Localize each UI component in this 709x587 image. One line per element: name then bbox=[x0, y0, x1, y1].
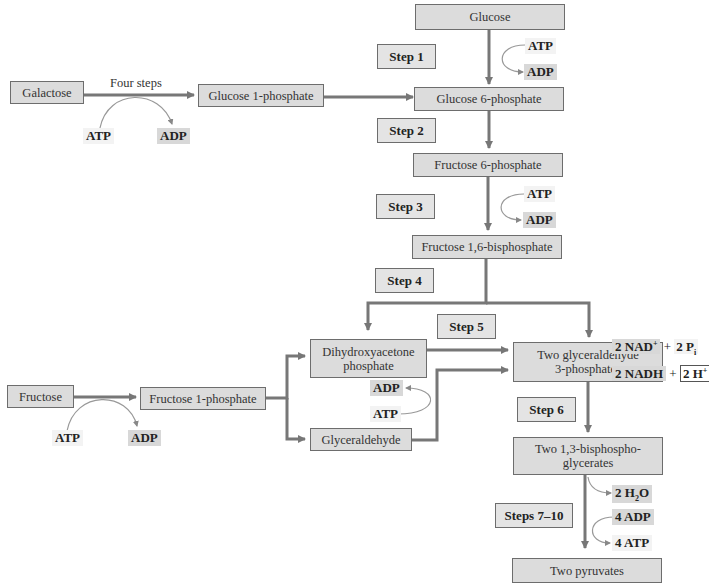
bpg-label-line2: glycerates bbox=[563, 456, 614, 470]
step3-atp-label: ATP bbox=[524, 186, 555, 202]
step-2-label: Step 2 bbox=[389, 123, 423, 139]
four-adp-label: 4 ADP bbox=[612, 509, 654, 525]
dhap-label-line2: phosphate bbox=[343, 359, 394, 373]
glucose-1-phosphate-box: Glucose 1-phosphate bbox=[198, 84, 324, 107]
fructose-atp-label: ATP bbox=[52, 430, 83, 446]
bisphosphoglycerates-box: Two 1,3-bisphospho-glycerates bbox=[513, 437, 663, 475]
galactose-atp-label: ATP bbox=[83, 128, 114, 144]
four-atp-label: 4 ATP bbox=[612, 535, 652, 551]
galactose-adp-label: ADP bbox=[157, 128, 190, 144]
dhap-label-line1: Dihydroxyacetone bbox=[322, 345, 414, 359]
pi-label: 2 Pi bbox=[674, 339, 698, 354]
glycolysis-diagram: Glucose Glucose 6-phosphate Fructose 6-p… bbox=[0, 0, 709, 587]
glyceraldehyde-box: Glyceraldehyde bbox=[310, 428, 412, 451]
step-2-box: Step 2 bbox=[377, 118, 436, 143]
fructose-6-phosphate-label: Fructose 6-phosphate bbox=[434, 158, 541, 172]
galactose-label: Galactose bbox=[22, 86, 71, 100]
glyceraldehyde-label: Glyceraldehyde bbox=[321, 433, 400, 447]
glucose-label: Glucose bbox=[470, 10, 511, 24]
glucose-6-phosphate-box: Glucose 6-phosphate bbox=[414, 87, 564, 111]
pyruvates-box: Two pyruvates bbox=[512, 558, 662, 583]
fructose-1-phosphate-label: Fructose 1-phosphate bbox=[149, 392, 256, 406]
fructose-1-phosphate-box: Fructose 1-phosphate bbox=[140, 387, 266, 410]
step-4-box: Step 4 bbox=[375, 268, 434, 293]
nadh-label: 2 NADH bbox=[612, 366, 666, 381]
step1-adp-label: ADP bbox=[524, 64, 557, 80]
galactose-box: Galactose bbox=[10, 81, 84, 104]
pyruvates-label: Two pyruvates bbox=[550, 564, 624, 578]
step-1-label: Step 1 bbox=[389, 49, 423, 65]
fructose-box: Fructose bbox=[7, 385, 74, 408]
steps-7-10-label: Steps 7–10 bbox=[505, 508, 564, 524]
step-5-box: Step 5 bbox=[437, 314, 496, 339]
step-3-label: Step 3 bbox=[388, 199, 422, 215]
step1-atp-label: ATP bbox=[525, 38, 556, 54]
nad-label: 2 NAD+ bbox=[612, 339, 660, 354]
glyceraldehyde-adp-label: ADP bbox=[370, 380, 403, 396]
glucose-6-phosphate-label: Glucose 6-phosphate bbox=[436, 92, 541, 106]
glucose-box: Glucose bbox=[415, 4, 565, 30]
nadh-h-label: 2 NADH + 2 H+ bbox=[612, 366, 709, 382]
fructose-label: Fructose bbox=[19, 390, 62, 404]
fructose-1-6-bisphosphate-box: Fructose 1,6-bisphosphate bbox=[412, 235, 562, 259]
glucose-1-phosphate-label: Glucose 1-phosphate bbox=[208, 89, 313, 103]
bpg-label-line1: Two 1,3-bisphospho- bbox=[535, 442, 641, 456]
nad-pi-label: 2 NAD+ + 2 Pi bbox=[612, 339, 698, 357]
fructose-6-phosphate-box: Fructose 6-phosphate bbox=[413, 153, 563, 177]
pathway-arrows bbox=[0, 0, 709, 587]
step-5-label: Step 5 bbox=[449, 319, 483, 335]
h-plus-label: 2 H+ bbox=[680, 365, 709, 382]
h2o-label: 2 H2O bbox=[612, 485, 652, 503]
step-3-box: Step 3 bbox=[376, 194, 435, 219]
dhap-box: Dihydroxyacetonephosphate bbox=[310, 339, 427, 378]
step-6-box: Step 6 bbox=[517, 397, 576, 422]
fructose-adp-label: ADP bbox=[128, 430, 161, 446]
fructose-1-6-bisphosphate-label: Fructose 1,6-bisphosphate bbox=[421, 240, 552, 254]
four-steps-label: Four steps bbox=[110, 76, 162, 91]
step3-adp-label: ADP bbox=[523, 212, 556, 228]
step-1-box: Step 1 bbox=[377, 44, 436, 69]
step-4-label: Step 4 bbox=[387, 273, 421, 289]
steps-7-10-box: Steps 7–10 bbox=[495, 503, 573, 528]
glyceraldehyde-atp-label: ATP bbox=[370, 406, 401, 422]
step-6-label: Step 6 bbox=[529, 402, 563, 418]
